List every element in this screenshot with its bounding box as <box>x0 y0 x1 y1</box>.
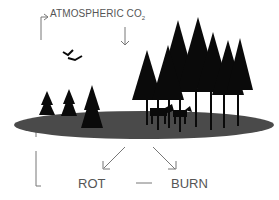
forest-floor <box>14 111 274 139</box>
diagram-canvas <box>0 0 279 200</box>
rot-label: ROT <box>78 176 105 191</box>
atmospheric-co2-label: ATMOSPHERIC CO2 <box>50 8 145 21</box>
birds-icon <box>63 50 82 60</box>
burn-label: BURN <box>171 176 208 191</box>
